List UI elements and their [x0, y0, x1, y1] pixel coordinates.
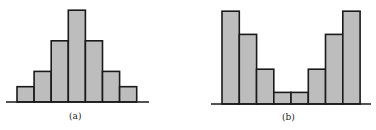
histogram-bar: [17, 87, 34, 102]
histogram-bar: [222, 11, 239, 104]
caption-b: (b): [282, 112, 295, 122]
histogram-bar: [308, 69, 325, 104]
histogram-bar: [257, 69, 274, 104]
histograms-figure: [0, 0, 376, 130]
histogram-bar: [68, 10, 85, 102]
caption-a: (a): [69, 111, 81, 121]
histogram-bar: [120, 87, 137, 102]
histogram-bar: [103, 71, 120, 102]
histogram-bar: [85, 41, 102, 102]
histogram-bar: [51, 41, 68, 102]
histogram-bar: [34, 71, 51, 102]
histogram-bar: [291, 92, 308, 104]
histogram-bar: [274, 92, 291, 104]
histogram-bar: [326, 34, 343, 104]
histogram-b: [211, 11, 371, 104]
histogram-a: [6, 10, 149, 102]
histogram-bar: [343, 11, 360, 104]
histogram-bar: [239, 34, 256, 104]
